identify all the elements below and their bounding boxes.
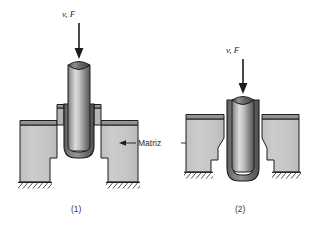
die-left-block-stage-1	[20, 121, 57, 183]
force-arrow-stage-2	[239, 59, 248, 94]
stage-1-group: v, F	[18, 9, 140, 214]
diagram-canvas: v, F	[0, 0, 317, 229]
ground-support-stage-1	[18, 182, 140, 188]
die-right-block-stage-1	[101, 121, 138, 183]
die-label: Matriz	[138, 138, 161, 148]
die-left-block-stage-2	[186, 115, 224, 173]
die-right-block-stage-2	[262, 115, 299, 173]
punch-stage-1	[68, 62, 90, 152]
caption-stage-2: (2)	[235, 204, 246, 214]
punch-stage-2	[232, 97, 254, 173]
stage-2-group: v, F (2)	[184, 45, 301, 214]
force-arrow-stage-1	[75, 23, 84, 59]
die-shoulder-left-stage-1	[57, 105, 64, 126]
caption-stage-1: (1)	[71, 204, 82, 214]
die-shoulder-right-stage-1	[94, 105, 101, 126]
force-label-stage-1: v, F	[62, 9, 76, 19]
force-label-stage-2: v, F	[226, 45, 240, 55]
forming-process-diagram: v, F	[0, 0, 317, 229]
